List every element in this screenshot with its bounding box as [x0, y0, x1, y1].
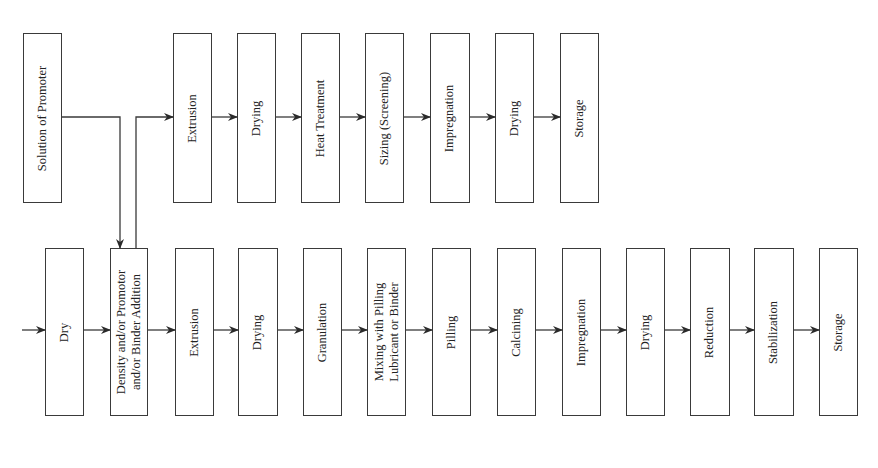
connector-arrows	[0, 0, 878, 468]
arrow-promoter-to-density	[62, 117, 120, 248]
arrow-density-to-top-extrusion	[136, 117, 173, 248]
